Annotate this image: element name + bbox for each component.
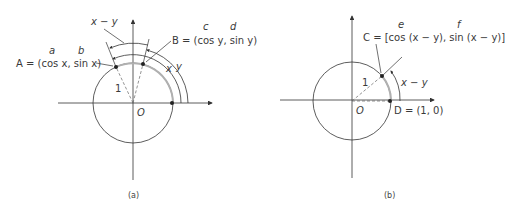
label-D: D = (1, 0) bbox=[394, 105, 443, 116]
point-D bbox=[388, 99, 392, 103]
leader-diff bbox=[104, 29, 124, 43]
unit-circle-diagrams: x − y c d B = (cos y, sin y) a b A = (co… bbox=[0, 0, 507, 209]
arc-highlight bbox=[116, 63, 173, 103]
tag-e: e bbox=[398, 19, 404, 30]
tag-b: b bbox=[78, 45, 84, 56]
label-radius-1: 1 bbox=[115, 83, 121, 94]
point-A bbox=[114, 65, 118, 69]
label-radius-1: 1 bbox=[362, 77, 368, 88]
leader-C bbox=[376, 44, 381, 73]
label-x: x bbox=[165, 63, 172, 74]
arc-y bbox=[147, 50, 188, 103]
tag-d: d bbox=[230, 21, 237, 32]
arc-highlight bbox=[382, 76, 391, 101]
label-A: A = (cos x, sin x) bbox=[16, 58, 101, 69]
label-origin: O bbox=[137, 107, 145, 118]
caption-a: (a) bbox=[128, 191, 139, 200]
label-C: C = [cos (x − y), sin (x − y)] bbox=[363, 32, 505, 43]
point-one-zero bbox=[170, 101, 174, 105]
caption-b: (b) bbox=[384, 191, 395, 200]
radius-OB bbox=[133, 64, 143, 103]
label-origin: O bbox=[356, 105, 364, 116]
point-B bbox=[141, 62, 145, 66]
leader-B bbox=[146, 41, 171, 62]
arc-x-minus-y bbox=[391, 71, 400, 101]
label-B: B = (cos y, sin y) bbox=[172, 35, 257, 46]
label-y: y bbox=[175, 61, 183, 72]
tag-a: a bbox=[49, 45, 55, 56]
tag-f: f bbox=[457, 19, 462, 30]
label-x-minus-y: x − y bbox=[400, 77, 429, 88]
tag-c: c bbox=[203, 21, 209, 32]
label-x-minus-y: x − y bbox=[90, 16, 119, 27]
figure-b: e f C = [cos (x − y), sin (x − y)] 1 x −… bbox=[280, 16, 505, 200]
point-C bbox=[380, 74, 384, 78]
arc-x-minus-y bbox=[110, 43, 148, 48]
ray-A-ext bbox=[106, 42, 116, 67]
arc-x bbox=[113, 55, 181, 103]
figure-a: x − y c d B = (cos y, sin y) a b A = (co… bbox=[16, 16, 257, 200]
